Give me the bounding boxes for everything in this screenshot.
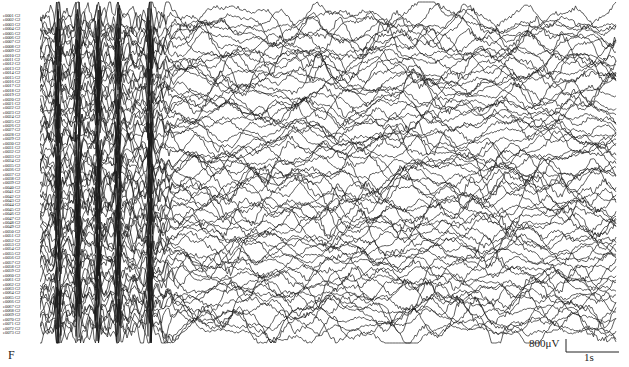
eeg-trace — [40, 263, 616, 314]
eeg-trace — [40, 77, 616, 131]
scale-voltage-label: 800μV — [529, 337, 559, 349]
eeg-trace-plot — [40, 0, 620, 345]
eeg-figure: e0001 G2e0002 G2e0003 G2e0004 G2e0005 G2… — [0, 0, 629, 367]
channel-label: e0073 G2 — [3, 331, 20, 336]
panel-letter: F — [8, 348, 15, 363]
eeg-trace — [40, 289, 616, 343]
scale-time-label: 1s — [584, 351, 594, 363]
eeg-trace — [40, 77, 616, 132]
channel-label-column: e0001 G2e0002 G2e0003 G2e0004 G2e0005 G2… — [3, 12, 41, 336]
